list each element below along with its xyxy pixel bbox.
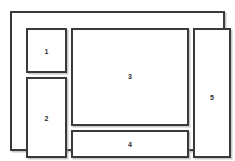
region-5-label: 5 [195, 93, 229, 100]
region-2[interactable]: 2 [26, 77, 67, 158]
region-5[interactable]: 5 [193, 28, 231, 158]
region-4-label: 4 [73, 141, 187, 148]
region-2-label: 2 [28, 114, 65, 121]
region-4[interactable]: 4 [71, 130, 189, 158]
region-1-label: 1 [28, 47, 65, 54]
wireframe-diagram: 1 2 3 4 5 [0, 0, 235, 161]
region-1[interactable]: 1 [26, 28, 67, 73]
region-3-label: 3 [73, 73, 187, 80]
region-3[interactable]: 3 [71, 28, 189, 126]
outer-frame: 1 2 3 4 5 [10, 11, 225, 151]
